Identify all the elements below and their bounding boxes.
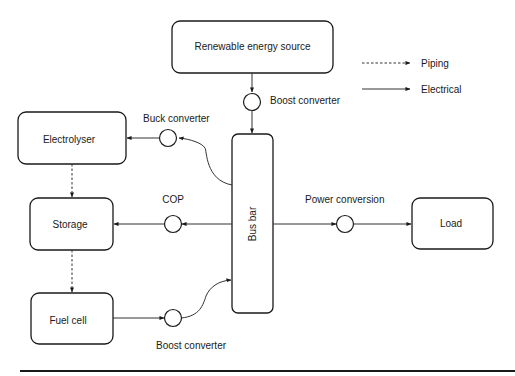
buck-converter-circle [160, 130, 177, 147]
cop-label: COP [162, 194, 184, 205]
boost-converter-bottom-circle [165, 310, 182, 327]
power-conversion-label: Power conversion [305, 194, 384, 205]
storage-label: Storage [52, 219, 87, 230]
electrolyser-label: Electrolyser [43, 134, 96, 145]
fuel-cell-label: Fuel cell [49, 315, 86, 326]
wire-busbar-to-buck [179, 138, 232, 185]
bus-bar-label: Bus bar [247, 206, 258, 241]
energy-system-diagram: Piping Electrical Renewable energy sourc… [0, 0, 515, 376]
renewable-energy-source-label: Renewable energy source [194, 41, 311, 52]
legend-piping-label: Piping [421, 58, 449, 69]
legend-electrical-label: Electrical [421, 84, 462, 95]
power-conversion-circle [337, 216, 354, 233]
boost-converter-top-label: Boost converter [270, 95, 341, 106]
buck-converter-label: Buck converter [143, 113, 210, 124]
wire-boost-to-busbar [182, 280, 232, 318]
boost-converter-top-circle [244, 94, 261, 111]
cop-circle [165, 216, 182, 233]
load-label: Load [440, 218, 462, 229]
boost-converter-bottom-label: Boost converter [156, 340, 227, 351]
